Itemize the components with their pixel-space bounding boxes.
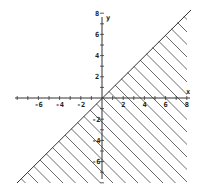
x-axis-label: x <box>186 88 191 96</box>
x-tick-label: -4 <box>56 101 64 109</box>
y-tick-label: 2 <box>95 73 99 81</box>
y-tick-label: 4 <box>95 52 99 60</box>
x-tick-label: 8 <box>185 101 189 109</box>
y-tick-label: -6 <box>92 158 100 166</box>
y-tick-label: 8 <box>95 10 99 18</box>
x-tick-label: 2 <box>121 101 125 109</box>
x-tick-label: 6 <box>164 101 168 109</box>
y-tick-label: 6 <box>95 31 99 39</box>
x-tick-label: -6 <box>34 101 42 109</box>
shaded-region-hatch <box>0 0 201 193</box>
x-tick-label: 4 <box>142 101 146 109</box>
y-tick-label: -4 <box>92 137 100 145</box>
x-tick-label: -2 <box>77 101 85 109</box>
boundary-line <box>17 10 191 183</box>
y-axis-label: y <box>106 14 111 22</box>
inequality-graph: -6-4-22468 8642-2-4-6 x y <box>0 0 201 193</box>
y-tick-label: -2 <box>92 116 100 124</box>
